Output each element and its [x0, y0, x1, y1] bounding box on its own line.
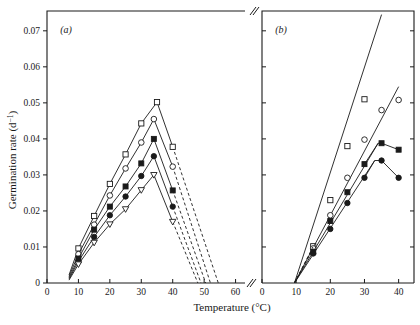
- panel-b-marker-filled-square: [396, 147, 401, 152]
- panel-a-marker-open-square: [170, 144, 175, 149]
- panel-a-extrapolation-series-5-open-triangle-down: [173, 222, 198, 283]
- panel-a-marker-open-circle: [170, 164, 176, 170]
- panel-b-marker-filled-square: [362, 162, 367, 167]
- panel-a-line-series-4-filled-circle: [69, 156, 173, 279]
- y-tick-label: 0.03: [23, 170, 40, 180]
- panel-a-extrapolation-series-3-filled-square: [173, 190, 206, 283]
- panel-b-marker-open-square: [328, 198, 333, 203]
- x-tick-label-b: 40: [394, 287, 404, 297]
- y-tick-label: 0.05: [23, 98, 40, 108]
- panel-a-marker-open-circle: [151, 116, 157, 122]
- panel-b-marker-filled-circle: [345, 200, 350, 205]
- panel-a-marker-filled-square: [139, 161, 144, 166]
- x-axis-title: Temperature (°C): [193, 301, 271, 314]
- panel-b-marker-filled-square: [328, 219, 333, 224]
- x-tick-label-b: 0: [260, 287, 265, 297]
- chart-svg: 00.010.020.030.040.050.060.0701020304050…: [0, 0, 420, 325]
- y-tick-label: 0: [35, 278, 40, 288]
- panel-b-marker-open-circle: [379, 107, 385, 113]
- panel-a-marker-filled-circle: [170, 204, 175, 209]
- y-tick-label: 0.04: [23, 134, 40, 144]
- panel-a-extrapolation-series-2-open-circle: [173, 167, 211, 283]
- y-tick-label: 0.07: [23, 26, 40, 36]
- panel-b-marker-filled-circle: [328, 226, 333, 231]
- panel-b-marker-filled-square: [345, 190, 350, 195]
- panel-a-label: (a): [60, 24, 72, 36]
- panel-a-marker-filled-square: [107, 204, 112, 209]
- panel-a-marker-filled-square: [170, 188, 175, 193]
- panel-a-marker-filled-circle: [151, 153, 156, 158]
- x-tick-label-a: 60: [231, 287, 241, 297]
- panel-b-marker-open-circle: [362, 137, 368, 143]
- panel-b-marker-open-circle: [396, 97, 402, 103]
- y-tick-label: 0.02: [23, 206, 40, 216]
- y-tick-label: 0.06: [23, 62, 40, 72]
- panel-a-marker-filled-circle: [91, 234, 96, 239]
- panel-a-marker-open-triangle-down: [170, 219, 176, 225]
- panel-a-marker-filled-circle: [139, 173, 144, 178]
- panel-a-marker-filled-circle: [123, 194, 128, 199]
- panel-a-marker-open-square: [123, 152, 128, 157]
- x-tick-label-b: 30: [360, 287, 370, 297]
- panel-a-marker-filled-square: [151, 136, 156, 141]
- x-tick-label-a: 0: [45, 287, 50, 297]
- panel-b-marker-filled-circle: [396, 175, 401, 180]
- panel-b-marker-filled-circle: [379, 158, 384, 163]
- panel-a-marker-filled-circle: [107, 213, 112, 218]
- panel-b-marker-open-circle: [345, 175, 351, 181]
- panel-a-line-series-3-filled-square: [69, 139, 173, 278]
- panel-a-marker-open-square: [139, 121, 144, 126]
- panel-a-marker-open-square: [154, 100, 159, 105]
- x-tick-label-a: 10: [74, 287, 84, 297]
- panel-a-line-series-5-open-triangle-down: [69, 175, 173, 280]
- panel-a-marker-open-square: [92, 213, 97, 218]
- panel-b-marker-open-square: [362, 97, 367, 102]
- panel-b-marker-filled-square: [379, 141, 384, 146]
- panel-a-marker-open-circle: [138, 140, 144, 146]
- x-tick-label-a: 50: [199, 287, 209, 297]
- panel-a-marker-open-circle: [107, 193, 113, 199]
- panel-b-marker-open-square: [345, 143, 350, 148]
- panel-b-label: (b): [275, 24, 287, 36]
- x-tick-label-a: 30: [137, 287, 147, 297]
- panel-a-marker-filled-square: [123, 184, 128, 189]
- panel-b-fit-series-1-open-square: [294, 15, 381, 283]
- panel-b-marker-filled-circle: [362, 175, 367, 180]
- germination-rate-figure: 00.010.020.030.040.050.060.0701020304050…: [0, 0, 420, 325]
- x-tick-label-b: 20: [326, 287, 336, 297]
- panel-a-marker-filled-square: [92, 227, 97, 232]
- x-tick-label-a: 20: [105, 287, 115, 297]
- y-tick-label: 0.01: [23, 242, 40, 252]
- panel-b-marker-open-circle: [328, 212, 334, 218]
- panel-a-extrapolation-series-4-filled-circle: [173, 207, 201, 283]
- panel-a-extrapolation-series-1-open-square: [173, 147, 219, 283]
- x-tick-label-b: 10: [291, 287, 301, 297]
- panel-a-marker-open-circle: [123, 166, 129, 172]
- panel-a-line-series-2-open-circle: [69, 119, 173, 276]
- x-tick-label-a: 40: [168, 287, 178, 297]
- y-axis-title: Germination rate (d−1): [6, 110, 20, 209]
- panel-b-marker-filled-circle: [311, 251, 316, 256]
- panel-a-marker-open-square: [107, 181, 112, 186]
- panel-a-frame: [47, 11, 245, 283]
